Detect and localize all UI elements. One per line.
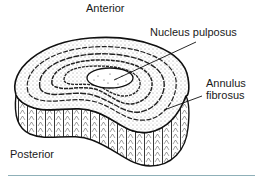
annulus-label-line1: Annulus	[206, 77, 246, 89]
bottom-divider	[8, 175, 255, 176]
anterior-label: Anterior	[86, 2, 125, 14]
posterior-label: Posterior	[10, 148, 54, 160]
annulus-label-line2: fibrosus	[206, 89, 246, 101]
nucleus-pulposus-label: Nucleus pulposus	[150, 26, 237, 38]
annulus-fibrosus-label: Annulus fibrosus	[206, 77, 246, 101]
nucleus-pulposus-shape	[87, 68, 133, 88]
